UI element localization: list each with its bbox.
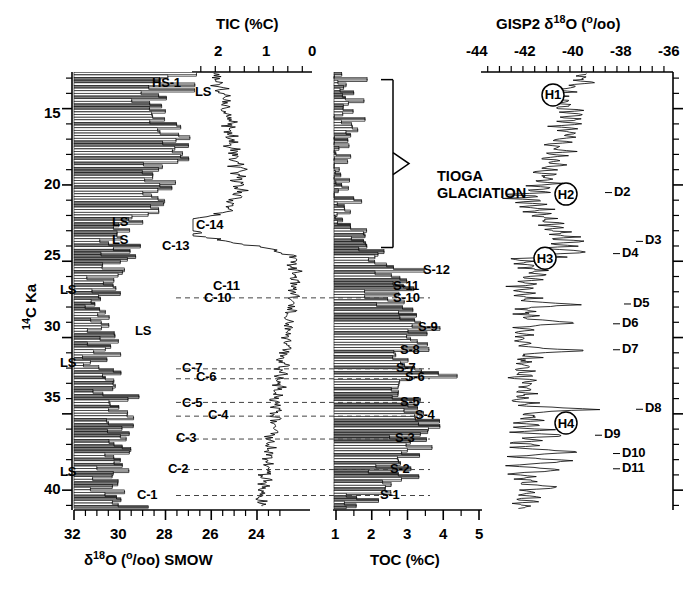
- d18o-bar: [74, 276, 87, 278]
- d18o-tick-label: 24: [248, 525, 265, 542]
- s-event-label: S-8: [400, 342, 420, 357]
- d18o-bar: [74, 400, 109, 402]
- heinrich-event-label: H1: [545, 87, 562, 102]
- toc-bar: [334, 146, 339, 148]
- d18o-tick-label: 28: [156, 525, 173, 542]
- toc-bar: [334, 207, 345, 209]
- d18o-bar: [74, 403, 110, 405]
- toc-bar: [334, 364, 405, 366]
- d18o-bar: [74, 387, 113, 389]
- y-axis-title: 14C Ka: [22, 284, 39, 330]
- d18o-bar: [74, 503, 118, 505]
- d18o-bar: [74, 305, 85, 307]
- toc-bar: [334, 104, 343, 106]
- d18o-bar: [74, 294, 98, 296]
- s-event-label: S-9: [418, 319, 438, 334]
- toc-axis-title: TOC (%C): [370, 551, 440, 568]
- d18o-bar: [74, 440, 109, 442]
- heinrich-event-label: H2: [558, 187, 575, 202]
- d18o-bar: [74, 239, 100, 241]
- gisp2-tick-label: -40: [562, 42, 584, 59]
- toc-bar: [334, 353, 396, 355]
- y-axis-title-text: 14C Ka: [22, 284, 39, 330]
- gisp2-axis-title: GISP2 δ18O (o/oo): [496, 15, 620, 32]
- ls-marker-label: LS: [112, 214, 128, 229]
- d18o-bar: [74, 202, 164, 204]
- toc-bar: [334, 488, 385, 490]
- d18o-bar: [74, 342, 87, 344]
- toc-bar: [334, 311, 399, 313]
- d-event-label: D7: [622, 341, 638, 356]
- d18o-bar: [74, 318, 91, 320]
- toc-bar: [334, 379, 400, 381]
- s-event-label: S-2: [390, 461, 410, 476]
- gisp2-tick-label: -42: [514, 42, 536, 59]
- toc-tick-label: 5: [475, 525, 483, 542]
- d18o-bar: [74, 199, 165, 201]
- d18o-bar: [74, 482, 118, 484]
- d18o-bar: [74, 104, 162, 106]
- d18o-bar: [74, 210, 159, 212]
- d18o-bar: [74, 408, 109, 410]
- d18o-bar: [74, 413, 127, 415]
- c-event-label: C-7: [182, 360, 202, 375]
- toc-bar: [334, 107, 343, 109]
- toc-bar: [334, 337, 411, 339]
- d18o-bar: [74, 421, 108, 423]
- tioga-glaciation-label: TIOGA GLACIATION: [437, 168, 526, 202]
- ls-marker-label: LS: [60, 282, 76, 297]
- toc-bar: [334, 390, 398, 392]
- d-event-label: D3: [645, 232, 661, 247]
- c-event-label: C-14: [196, 217, 223, 232]
- toc-bar: [334, 485, 385, 487]
- hs1-marker-label: HS-1: [152, 75, 181, 90]
- d18o-bar: [74, 300, 91, 302]
- tic-tick-label: 2: [214, 42, 222, 59]
- c-event-label: C-1: [137, 487, 157, 502]
- d18o-bar: [74, 197, 158, 199]
- d18o-bar: [74, 257, 127, 259]
- d18o-bar: [74, 207, 159, 209]
- d-event-label: D9: [604, 426, 620, 441]
- ls-marker-label: LS: [135, 323, 151, 338]
- paleoclimate-figure: H1H2H3H4: [0, 0, 699, 592]
- d18o-bar: [74, 426, 122, 428]
- toc-bar: [334, 189, 338, 191]
- d18o-bar: [74, 130, 160, 132]
- d18o-bar: [74, 471, 113, 473]
- toc-bar: [334, 361, 401, 363]
- s-event-label: S-1: [380, 487, 400, 502]
- d18o-bar: [74, 466, 97, 468]
- d18o-tick-label: 32: [64, 525, 81, 542]
- d18o-bar: [74, 360, 90, 362]
- d18o-bar: [74, 334, 115, 336]
- toc-bar: [334, 202, 337, 204]
- toc-bar: [334, 281, 393, 283]
- toc-bar: [334, 464, 376, 466]
- s-event-label: S-5: [400, 394, 420, 409]
- c-event-label: C-5: [182, 395, 202, 410]
- c-event-label: C-13: [162, 238, 189, 253]
- d18o-axis-title: δ18O (o/oo) SMOW: [84, 551, 213, 568]
- d18o-bar: [74, 434, 120, 436]
- d18o-bar: [74, 189, 158, 191]
- toc-bar: [334, 125, 352, 127]
- d18o-bar: [74, 260, 120, 262]
- d18o-bar: [74, 271, 122, 273]
- toc-bar: [334, 120, 341, 122]
- toc-bar: [334, 451, 402, 453]
- toc-bar: [334, 131, 346, 133]
- d18o-bar: [74, 96, 166, 98]
- toc-bar: [334, 242, 366, 244]
- toc-bar: [334, 234, 365, 236]
- d18o-bar: [74, 86, 149, 88]
- d18o-bar: [74, 80, 160, 82]
- d18o-tick-label: 26: [202, 525, 219, 542]
- d18o-bar: [74, 146, 175, 148]
- d-event-label: D10: [622, 445, 645, 460]
- d18o-bar: [74, 442, 114, 444]
- d18o-bar: [74, 297, 100, 299]
- d18o-bar: [74, 429, 107, 431]
- d18o-bar: [74, 286, 116, 288]
- toc-bar: [334, 459, 398, 461]
